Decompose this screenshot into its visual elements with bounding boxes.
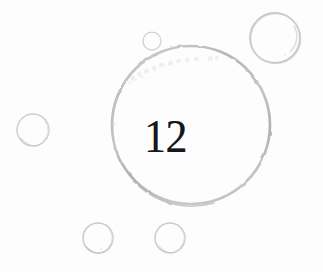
bubble-bottom-left [83,223,113,253]
bubble-top-small [143,32,161,50]
bubble-top-right-large [250,13,301,64]
main-circle [112,46,270,206]
bubble-left [17,114,49,146]
bubble-artwork [0,0,323,272]
bubble-bottom-right [155,223,185,253]
chapter-illustration-page: 12 [0,0,323,272]
